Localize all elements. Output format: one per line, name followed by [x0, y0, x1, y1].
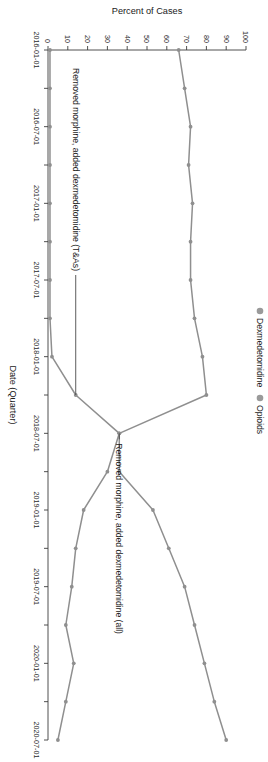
data-point: [74, 546, 78, 550]
annotation-tas: Removed morphine, added dexmedetomidine …: [71, 68, 81, 395]
data-point: [189, 240, 193, 244]
data-point: [82, 508, 86, 512]
y-tick-label: 100: [241, 31, 250, 43]
data-point: [48, 278, 52, 282]
data-point: [191, 201, 195, 205]
x-tick-label: 2018-07-01: [32, 415, 41, 452]
data-point: [48, 125, 52, 129]
y-axis-ticks: 0102030405060708090100: [43, 31, 250, 50]
x-tick-label: 2020-01-01: [32, 645, 41, 682]
data-point: [48, 316, 52, 320]
data-point: [56, 738, 60, 742]
data-point: [193, 316, 197, 320]
legend-label-dexmedetomidine: Dexmedetomidine: [255, 318, 265, 387]
data-point: [189, 125, 193, 129]
chart-canvas: Dexmedetomidine Opioids 0102030405060708…: [0, 0, 268, 762]
data-point: [224, 738, 228, 742]
x-tick-label: 2016-01-01: [32, 32, 41, 69]
x-tick-label: 2017-01-01: [32, 185, 41, 222]
data-point: [183, 86, 187, 90]
data-point: [64, 623, 68, 627]
data-point: [48, 163, 52, 167]
y-tick-label: 70: [182, 35, 191, 43]
annotation-tas-label: Removed morphine, added dexmedetomidine …: [71, 68, 81, 271]
data-point: [189, 278, 193, 282]
data-point: [48, 240, 52, 244]
data-point: [167, 546, 171, 550]
x-axis-ticks: 2016-01-012016-07-012017-01-012017-07-01…: [32, 32, 48, 759]
y-tick-label: 50: [142, 35, 151, 43]
data-point: [105, 470, 109, 474]
legend-label-opioids: Opioids: [255, 405, 265, 434]
x-tick-label: 2020-07-01: [32, 722, 41, 759]
data-point: [72, 661, 76, 665]
x-tick-label: 2019-07-01: [32, 568, 41, 605]
data-point: [205, 393, 209, 397]
data-point: [212, 700, 216, 704]
legend-swatch-dexmedetomidine: [257, 308, 264, 315]
y-tick-label: 40: [123, 35, 132, 43]
y-tick-label: 30: [103, 35, 112, 43]
chart-figure: Dexmedetomidine Opioids 0102030405060708…: [0, 0, 268, 762]
y-tick-label: 20: [83, 35, 92, 43]
chart-plot-area: Dexmedetomidine Opioids 0102030405060708…: [0, 0, 268, 762]
data-point: [48, 48, 52, 52]
x-axis-title: Date (Quarter): [8, 365, 18, 424]
annotation-all: Removed morphine, added dexmedetomidine …: [114, 433, 124, 634]
data-point: [151, 508, 155, 512]
y-tick-label: 80: [202, 35, 211, 43]
annotation-all-label: Removed morphine, added dexmedetomidine …: [114, 443, 124, 634]
y-tick-label: 90: [222, 35, 231, 43]
y-tick-label: 10: [63, 35, 72, 43]
x-tick-label: 2016-07-01: [32, 108, 41, 145]
x-tick-label: 2017-07-01: [32, 262, 41, 299]
data-point: [193, 623, 197, 627]
x-tick-label: 2019-01-01: [32, 492, 41, 529]
data-point: [64, 700, 68, 704]
y-tick-label: 60: [162, 35, 171, 43]
x-tick-label: 2018-01-01: [32, 338, 41, 375]
chart-legend: Dexmedetomidine Opioids: [255, 308, 265, 434]
data-point: [48, 86, 52, 90]
data-point: [70, 585, 74, 589]
y-tick-label: 0: [43, 39, 52, 43]
data-point: [177, 48, 181, 52]
data-point: [203, 661, 207, 665]
data-point: [50, 355, 54, 359]
y-axis-title: Percent of Cases: [112, 6, 183, 16]
data-point: [48, 201, 52, 205]
data-point: [201, 355, 205, 359]
legend-swatch-opioids: [257, 395, 264, 402]
data-point: [187, 163, 191, 167]
data-point: [183, 585, 187, 589]
